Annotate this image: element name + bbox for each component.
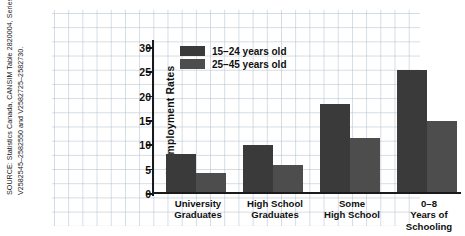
y-tick-label: 15 <box>111 115 151 127</box>
bar <box>320 104 350 192</box>
y-tick-label: 5 <box>111 164 151 176</box>
legend-label: 25–45 years old <box>212 59 287 70</box>
y-tick-label: 20 <box>111 91 151 103</box>
legend-label: 15–24 years old <box>212 46 287 57</box>
bar <box>397 70 427 192</box>
x-axis-line <box>152 192 461 194</box>
source-note: SOURCE: Statistics Canada, CANSIM Table … <box>5 0 39 195</box>
legend-swatch <box>180 46 205 56</box>
bar-group <box>316 46 388 192</box>
y-tick-label: 0 <box>111 188 151 200</box>
bar <box>427 121 457 192</box>
y-tick-label: 10 <box>111 139 151 151</box>
y-tick-label: 25 <box>111 66 151 78</box>
bar-group <box>393 46 465 192</box>
bar <box>166 154 196 192</box>
chart-legend: 15–24 years old25–45 years old <box>180 45 287 71</box>
legend-item: 25–45 years old <box>180 58 287 70</box>
y-axis-line <box>152 40 154 196</box>
bar <box>350 138 380 192</box>
legend-swatch <box>180 59 205 69</box>
bar <box>273 165 303 192</box>
bar <box>196 173 226 192</box>
y-tick-label: 30 <box>111 42 151 54</box>
x-category-label: 0–8 Years of Schooling <box>383 198 465 232</box>
bar <box>243 145 273 192</box>
legend-item: 15–24 years old <box>180 45 287 57</box>
grid-panel: Unemployment Rates 051015202530 Universi… <box>52 10 420 226</box>
